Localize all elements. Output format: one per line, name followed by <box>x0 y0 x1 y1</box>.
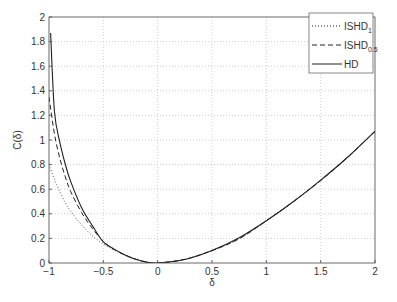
x-tick-label: 1 <box>264 266 270 277</box>
x-tick-label: 1.5 <box>314 266 328 277</box>
y-tick-label: 1.2 <box>31 110 45 121</box>
x-tick-label: 2 <box>372 266 378 277</box>
y-tick-label: 0.8 <box>31 159 45 170</box>
legend: ISHD1ISHD0.5HD <box>309 13 378 73</box>
y-tick-label: 1.4 <box>31 85 45 96</box>
y-tick-label: 0.6 <box>31 184 45 195</box>
y-tick-label: 2 <box>39 12 45 23</box>
y-axis-label: C(δ) <box>12 130 23 149</box>
line-chart: −1−0.500.511.52 00.20.40.60.811.21.41.61… <box>0 0 397 302</box>
x-tick-label: −1 <box>43 266 55 277</box>
x-tick-label: 0 <box>155 266 161 277</box>
x-axis-label: δ <box>209 277 215 288</box>
y-tick-label: 1 <box>39 135 45 146</box>
x-axis-ticks: −1−0.500.511.52 <box>43 260 378 277</box>
y-tick-label: 0 <box>39 258 45 269</box>
y-tick-label: 0.4 <box>31 208 45 219</box>
x-tick-label: −0.5 <box>93 266 113 277</box>
y-tick-label: 1.6 <box>31 61 45 72</box>
x-tick-label: 0.5 <box>205 266 219 277</box>
y-tick-label: 1.8 <box>31 36 45 47</box>
legend-label: HD <box>344 59 358 70</box>
y-tick-label: 0.2 <box>31 233 45 244</box>
